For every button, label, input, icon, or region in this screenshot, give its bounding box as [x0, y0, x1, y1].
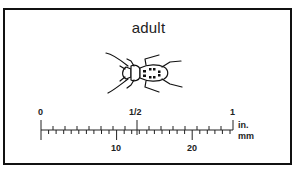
inch-label-1: 1 [230, 108, 235, 117]
mm-label-10: 10 [111, 144, 121, 153]
mm-ticks [49, 130, 230, 140]
inch-label-0: 0 [38, 108, 43, 117]
unit-mm: mm [238, 132, 254, 141]
inch-label-half: 1/2 [129, 108, 142, 117]
mm-label-20: 20 [187, 144, 197, 153]
unit-inches: in. [238, 121, 249, 130]
scale-ruler [41, 120, 233, 140]
figure-graphics [0, 0, 297, 169]
beetle-icon [106, 53, 182, 93]
